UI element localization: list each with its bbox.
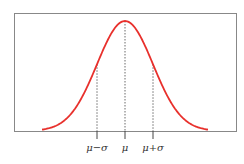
bell-curve-chart: [0, 0, 244, 164]
tick-label-mu: μ: [122, 142, 129, 153]
tick-marks: [97, 131, 153, 139]
tick-label-mu-plus-sigma: μ+σ: [142, 142, 164, 153]
plot-frame: [15, 14, 237, 132]
tick-label-mu-minus-sigma: μ−σ: [86, 142, 108, 153]
